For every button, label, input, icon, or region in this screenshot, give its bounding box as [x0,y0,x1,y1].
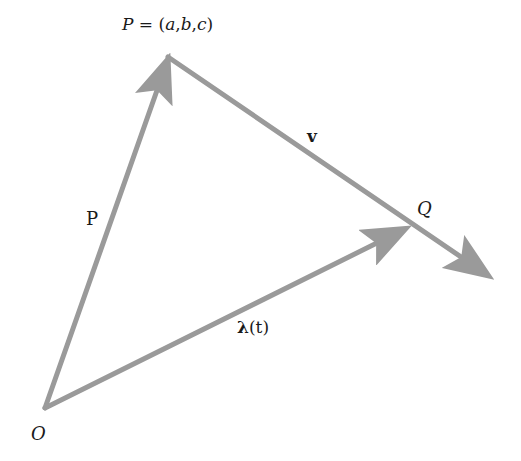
point-q-label: Q [417,198,432,219]
lambda-argument: (t) [249,317,269,337]
vector-v-line [168,57,486,274]
point-p-label: P = (a,b,c) [121,14,213,34]
vector-lambda-label: λ(t) [237,317,269,337]
vector-v-label: v [306,126,318,146]
vector-p-label: P [86,208,98,229]
lambda-symbol: λ [237,317,249,337]
vector-diagram: P = (a,b,c) v Q P λ(t) O [0,0,521,461]
point-o-label: O [31,423,46,444]
